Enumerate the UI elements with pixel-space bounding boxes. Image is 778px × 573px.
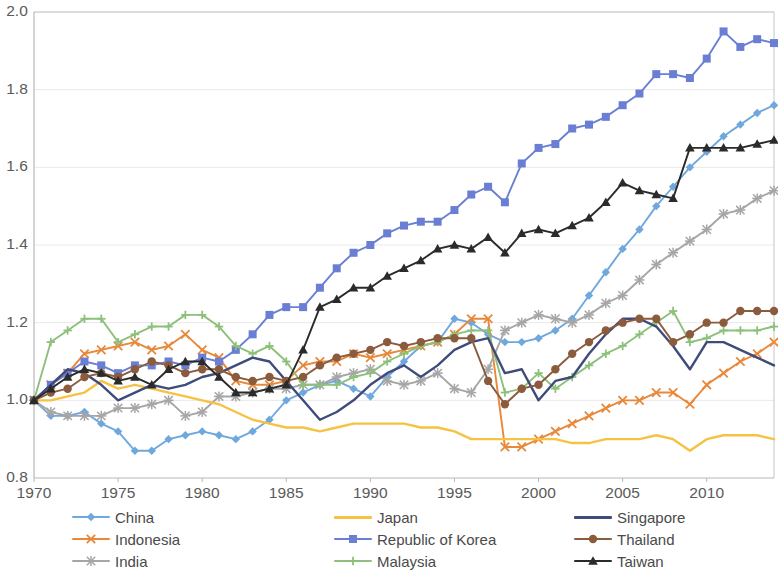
- data-point-marker: [433, 368, 443, 378]
- legend-swatch-icon: [72, 554, 110, 568]
- legend-item-japan[interactable]: Japan: [334, 506, 574, 528]
- y-tick-label: 2.0: [6, 2, 28, 20]
- data-point-marker: [299, 303, 307, 311]
- data-point-marker: [214, 391, 224, 401]
- data-point-marker: [588, 556, 598, 565]
- data-point-marker: [332, 372, 342, 382]
- data-point-marker: [467, 191, 475, 199]
- data-point-marker: [130, 403, 140, 413]
- legend-label: Singapore: [617, 509, 685, 526]
- data-point-marker: [417, 218, 425, 226]
- data-point-marker: [450, 334, 458, 342]
- legend-item-india[interactable]: India: [72, 550, 334, 572]
- data-point-marker: [349, 557, 357, 565]
- x-tick-label: 1990: [340, 484, 400, 502]
- data-point-marker: [282, 303, 290, 311]
- data-point-marker: [703, 55, 711, 63]
- legend-item-thailand[interactable]: Thailand: [574, 528, 778, 550]
- legend-swatch-icon: [334, 554, 372, 568]
- legend-marker-diamond-icon: [84, 510, 98, 524]
- data-point-marker: [501, 198, 509, 206]
- data-point-marker: [736, 307, 744, 315]
- series-china: [30, 101, 778, 455]
- data-point-marker: [450, 206, 458, 214]
- data-point-marker: [450, 240, 460, 249]
- legend-label: Indonesia: [115, 531, 180, 548]
- data-point-marker: [316, 361, 324, 369]
- data-point-marker: [350, 249, 358, 257]
- data-point-marker: [434, 218, 442, 226]
- data-point-marker: [534, 334, 542, 342]
- data-point-marker: [668, 248, 678, 258]
- legend-swatch-icon: [334, 510, 372, 524]
- data-point-marker: [333, 264, 341, 272]
- legend-item-china[interactable]: China: [72, 506, 334, 528]
- data-point-marker: [349, 350, 357, 358]
- data-point-marker: [501, 388, 509, 396]
- data-point-marker: [80, 364, 90, 373]
- data-point-marker: [618, 318, 626, 326]
- data-point-marker: [736, 326, 744, 334]
- legend-label: Republic of Korea: [377, 531, 496, 548]
- data-point-marker: [769, 135, 778, 144]
- legend-item-malaysia[interactable]: Malaysia: [334, 550, 574, 572]
- data-point-marker: [97, 361, 105, 369]
- y-tick-label: 1.2: [6, 313, 28, 331]
- data-point-marker: [87, 535, 95, 543]
- data-point-marker: [215, 358, 223, 366]
- data-point-marker: [96, 411, 106, 421]
- data-point-marker: [567, 318, 577, 328]
- legend-item-indonesia[interactable]: Indonesia: [72, 528, 334, 550]
- data-point-marker: [198, 365, 206, 373]
- data-point-marker: [249, 330, 257, 338]
- data-point-marker: [248, 377, 256, 385]
- data-point-marker: [86, 556, 96, 566]
- x-tick-label: 1985: [256, 484, 316, 502]
- data-point-marker: [720, 27, 728, 35]
- data-point-marker: [719, 369, 727, 377]
- data-point-marker: [333, 353, 341, 361]
- data-point-marker: [602, 113, 610, 121]
- legend-item-republic-of-korea[interactable]: Republic of Korea: [334, 528, 574, 550]
- data-point-marker: [770, 322, 778, 330]
- x-tick-label: 1975: [88, 484, 148, 502]
- data-point-marker: [265, 311, 273, 319]
- data-point-marker: [518, 338, 526, 346]
- legend-swatch-icon: [72, 532, 110, 546]
- data-point-marker: [131, 330, 139, 338]
- series-singapore: [34, 319, 774, 420]
- x-tick-label: 1970: [4, 484, 64, 502]
- plot-area: 0.81.01.21.41.61.82.0 197019751980198519…: [0, 0, 778, 500]
- data-point-marker: [652, 315, 660, 323]
- legend-marker-triangle-icon: [586, 554, 600, 568]
- data-point-marker: [752, 193, 762, 203]
- data-point-marker: [619, 101, 627, 109]
- legend-label: Thailand: [617, 531, 675, 548]
- data-point-marker: [517, 318, 527, 328]
- data-point-marker: [383, 338, 391, 346]
- data-point-marker: [568, 419, 576, 427]
- x-tick-label: 2000: [509, 484, 569, 502]
- legend-marker-square-icon: [346, 532, 360, 546]
- legend-item-taiwan[interactable]: Taiwan: [574, 550, 778, 572]
- data-point-marker: [601, 298, 611, 308]
- data-point-marker: [686, 74, 694, 82]
- data-point-marker: [449, 384, 459, 394]
- data-point-marker: [585, 412, 593, 420]
- data-point-marker: [147, 399, 157, 409]
- data-point-marker: [232, 435, 240, 443]
- data-point-marker: [63, 411, 73, 421]
- data-point-marker: [618, 290, 628, 300]
- data-point-marker: [265, 373, 273, 381]
- x-tick-label: 2010: [677, 484, 737, 502]
- data-point-marker: [501, 400, 509, 408]
- data-point-marker: [534, 225, 544, 234]
- data-point-marker: [551, 365, 559, 373]
- data-point-marker: [770, 307, 778, 315]
- data-point-marker: [686, 330, 694, 338]
- data-point-marker: [651, 259, 661, 269]
- data-point-marker: [130, 372, 140, 381]
- legend-item-singapore[interactable]: Singapore: [574, 506, 778, 528]
- data-point-marker: [686, 400, 694, 408]
- data-point-marker: [63, 384, 71, 392]
